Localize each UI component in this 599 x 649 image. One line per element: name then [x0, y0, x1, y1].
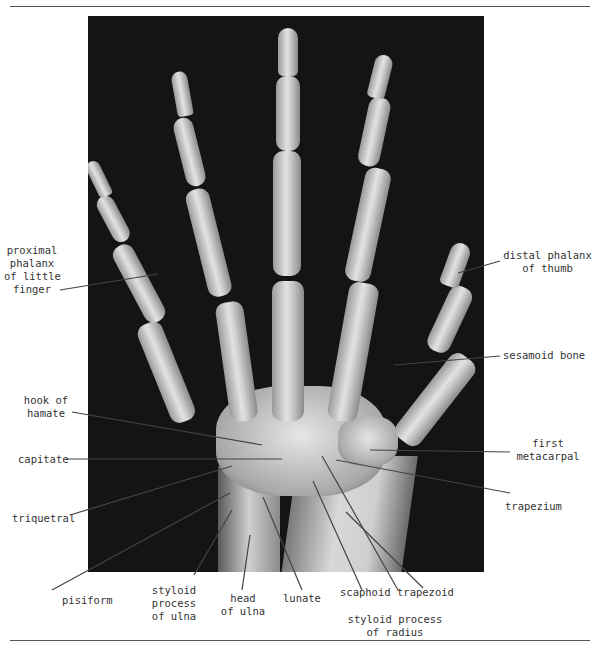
label-lunate: lunate [283, 592, 321, 605]
leader-lines [0, 0, 599, 649]
label-trapezoid: trapezoid [397, 586, 454, 599]
label-head-of-ulna: head of ulna [213, 592, 273, 618]
label-styloid-process-ulna: styloid process of ulna [144, 584, 204, 623]
label-trapezium: trapezium [505, 500, 562, 513]
label-sesamoid-bone: sesamoid bone [503, 349, 585, 362]
label-hook-of-hamate: hook of hamate [20, 394, 72, 420]
bottom-rule [10, 640, 590, 641]
label-scaphoid: scaphoid [340, 586, 391, 599]
label-distal-phalanx-thumb: distal phalanx of thumb [500, 249, 595, 275]
label-triquetral: triquetral [12, 512, 75, 525]
label-first-metacarpal: first metacarpal [510, 437, 586, 463]
label-capitate: capitate [18, 453, 69, 466]
label-proximal-phalanx-little-finger: proximal phalanx of little finger [4, 244, 60, 296]
label-pisiform: pisiform [62, 594, 113, 607]
label-styloid-process-radius: styloid process of radius [340, 613, 450, 639]
